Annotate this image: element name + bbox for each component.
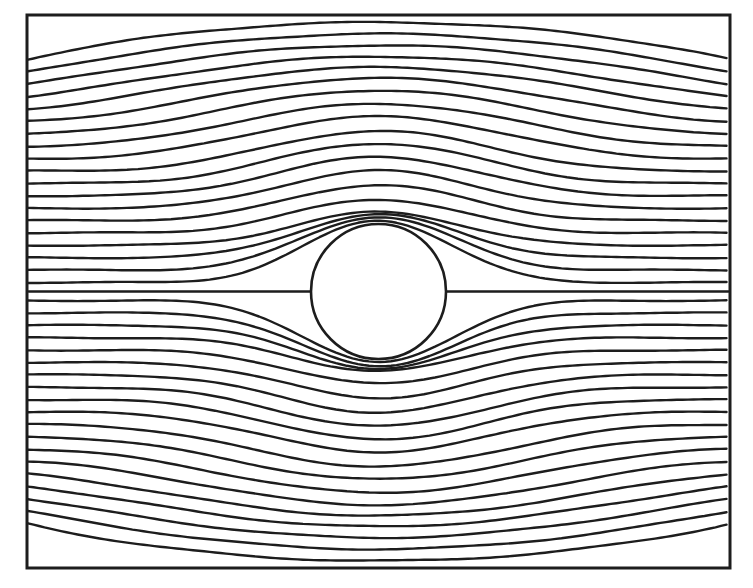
streamline-path — [28, 131, 727, 172]
streamline-path — [28, 144, 727, 184]
streamline-path — [28, 374, 727, 413]
streamline-path — [28, 412, 727, 453]
streamline-path — [28, 449, 727, 493]
streamline-plot-svg — [0, 0, 753, 588]
streamline-figure — [0, 0, 753, 588]
scanned-figure-page — [0, 0, 753, 588]
streamline-path — [28, 91, 727, 134]
streamline-path — [28, 185, 727, 221]
streamline-path — [28, 362, 727, 398]
streamline-path — [28, 157, 727, 197]
streamline-path — [28, 399, 727, 439]
streamline-path — [28, 116, 727, 159]
streamline-path — [28, 462, 727, 506]
streamline-path — [28, 424, 727, 467]
cylinder-circle — [311, 224, 446, 359]
streamline-path — [28, 170, 727, 209]
streamline-path — [28, 387, 727, 426]
